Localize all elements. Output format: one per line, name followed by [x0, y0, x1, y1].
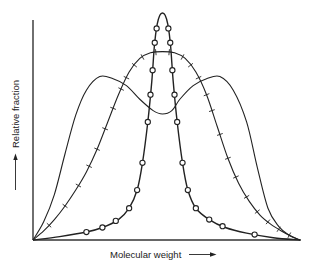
- circle-marker: [148, 92, 153, 97]
- molecular-weight-distribution-chart: Relative fraction Molecular weight: [0, 0, 312, 272]
- circle-marker: [150, 68, 155, 73]
- circle-marker: [193, 206, 198, 211]
- circle-marker: [207, 217, 212, 222]
- series-line-narrow-distribution: [33, 13, 300, 240]
- circle-marker: [154, 26, 159, 31]
- circle-marker: [220, 224, 225, 229]
- circle-marker: [100, 225, 105, 230]
- circle-marker: [127, 206, 132, 211]
- right-arrow-icon: [189, 252, 217, 256]
- circle-marker: [180, 160, 185, 165]
- circle-marker: [252, 232, 257, 237]
- circle-marker: [166, 26, 171, 31]
- circle-marker: [152, 40, 157, 45]
- y-axis-title: Relative fraction: [10, 80, 21, 148]
- series-layer: [33, 13, 300, 240]
- series-line-intermediate-distribution: [33, 52, 300, 240]
- circle-marker: [172, 92, 177, 97]
- circle-marker: [185, 187, 190, 192]
- series-intermediate-distribution: [33, 49, 300, 240]
- circle-marker: [135, 187, 140, 192]
- cross-marker: [156, 49, 157, 55]
- circle-marker: [175, 119, 180, 124]
- up-arrow-icon: [13, 154, 17, 191]
- y-axis-title-group: Relative fraction: [10, 80, 21, 148]
- cross-marker: [169, 49, 170, 55]
- circle-marker: [113, 218, 118, 223]
- circle-marker: [145, 119, 150, 124]
- x-axis-title: Molecular weight: [110, 249, 182, 260]
- circle-marker: [170, 68, 175, 73]
- circle-marker: [168, 40, 173, 45]
- circle-marker: [140, 160, 145, 165]
- cross-marker: [63, 204, 68, 208]
- circle-marker: [84, 229, 89, 234]
- series-narrow-distribution: [33, 13, 300, 240]
